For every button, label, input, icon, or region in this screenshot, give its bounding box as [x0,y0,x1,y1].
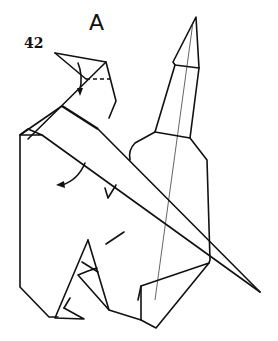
foot-right [88,240,141,320]
flap-notch [105,185,116,198]
arrow-head-icon [56,181,65,188]
fold-arrows [56,63,85,188]
corner-triangle [20,129,42,135]
flap-top-edge [62,106,98,129]
long-flap-upper [98,129,260,292]
left-body-outline [20,106,62,317]
cone-left-edge [155,65,175,132]
right-figure [106,17,210,328]
body-lower-left-edge [106,232,124,244]
origami-diagram [0,0,278,341]
arrow-head-icon [77,88,83,96]
left-figure [20,53,260,320]
head-fold-arrow [78,63,81,90]
cone-tip [173,17,199,68]
body-left-shoulder [130,132,155,160]
long-flap-lower [42,135,260,292]
cone-right-edge [190,68,199,138]
body-bottom-facets [141,263,209,328]
body-right-outline [155,132,210,263]
body-fold-arrow [62,163,85,185]
